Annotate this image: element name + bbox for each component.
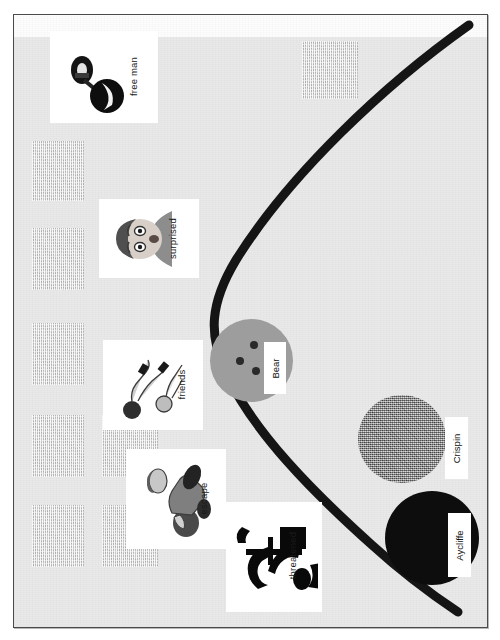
node-label-crispin-text: Crispin bbox=[451, 433, 462, 463]
node-label-bear: Bear bbox=[264, 342, 286, 394]
textured-square bbox=[32, 415, 84, 477]
thumb-surprised-face-icon bbox=[99, 199, 199, 278]
card-surprised[interactable]: surprised bbox=[99, 199, 199, 278]
card-friends[interactable]: friends bbox=[103, 340, 203, 430]
thumb-silhouette-struggle-icon bbox=[226, 502, 322, 612]
card-label-threatened: threatened bbox=[287, 532, 298, 579]
textured-square bbox=[32, 323, 84, 385]
node-label-bear-text: Bear bbox=[270, 358, 281, 378]
textured-square bbox=[32, 505, 84, 567]
node-crispin[interactable] bbox=[358, 395, 446, 483]
thumb-two-figures-icon bbox=[103, 340, 203, 430]
node-label-crispin: Crispin bbox=[445, 417, 468, 479]
card-escape[interactable]: escape bbox=[126, 449, 226, 549]
node-label-aycliffe: Aycliffe bbox=[448, 513, 471, 577]
bear-dot-icon bbox=[252, 367, 260, 375]
node-label-aycliffe-text: Aycliffe bbox=[454, 530, 465, 560]
card-label-escape: escape bbox=[199, 483, 210, 515]
card-label-free-man: free man bbox=[128, 57, 139, 96]
thumb-crouching-figure-icon bbox=[126, 449, 226, 549]
bear-dot-icon bbox=[236, 357, 244, 365]
bear-dot-icon bbox=[250, 341, 258, 349]
card-label-surprised: surprised bbox=[167, 218, 178, 259]
card-threatened[interactable]: threatened bbox=[226, 502, 322, 612]
card-label-friends: friends bbox=[177, 370, 188, 400]
thumb-ball-and-chain-icon bbox=[50, 31, 158, 123]
textured-square bbox=[302, 41, 358, 99]
card-free-man[interactable]: free man bbox=[50, 31, 158, 123]
scanned-page: Bear Crispin Aycliffe bbox=[13, 14, 488, 628]
textured-square bbox=[32, 228, 84, 290]
figure-canvas: Bear Crispin Aycliffe bbox=[0, 0, 500, 640]
textured-square bbox=[32, 141, 84, 201]
